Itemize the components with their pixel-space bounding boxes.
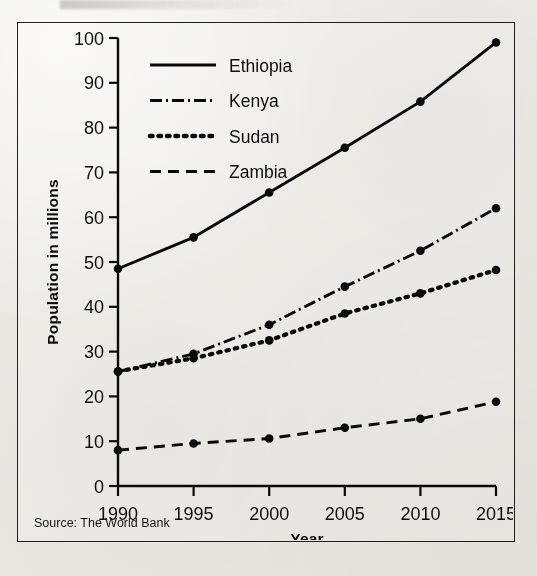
- x-tick-label-2000: 2000: [249, 504, 289, 524]
- series-line-kenya: [118, 208, 496, 372]
- data-point-ethiopia-1990: [114, 264, 123, 273]
- data-point-ethiopia-2010: [416, 97, 425, 106]
- x-tick-label-1995: 1995: [174, 504, 214, 524]
- data-point-zambia-2010: [416, 415, 425, 424]
- legend-label-kenya: Kenya: [229, 91, 279, 111]
- data-point-sudan-1995: [189, 354, 198, 363]
- x-tick-label-2015: 2015: [476, 504, 513, 524]
- data-point-zambia-1990: [114, 446, 123, 455]
- y-tick-label-100: 100: [74, 29, 104, 49]
- y-tick-label-60: 60: [84, 208, 104, 228]
- data-point-sudan-1990: [114, 367, 123, 376]
- data-point-ethiopia-2005: [341, 143, 350, 152]
- figure-frame: 0102030405060708090100199019952000200520…: [17, 22, 515, 542]
- legend-label-zambia: Zambia: [229, 162, 288, 182]
- series-line-ethiopia: [118, 42, 496, 268]
- y-tick-label-50: 50: [84, 253, 104, 273]
- data-point-ethiopia-2000: [265, 188, 274, 197]
- x-tick-label-2010: 2010: [400, 504, 440, 524]
- y-axis-title: Population in millions: [44, 179, 61, 344]
- x-axis-title: Year: [290, 530, 324, 540]
- data-point-ethiopia-2015: [492, 38, 501, 47]
- scan-artifact: [60, 0, 300, 9]
- x-tick-label-2005: 2005: [325, 504, 365, 524]
- data-point-sudan-2015: [492, 266, 501, 275]
- data-point-zambia-1995: [189, 439, 198, 448]
- series-line-sudan: [118, 270, 496, 371]
- data-point-zambia-2000: [265, 434, 274, 443]
- y-tick-label-80: 80: [84, 118, 104, 138]
- data-point-kenya-2005: [341, 282, 350, 291]
- legend-label-ethiopia: Ethiopia: [229, 56, 293, 76]
- y-tick-label-20: 20: [84, 387, 104, 407]
- line-chart: 0102030405060708090100199019952000200520…: [18, 23, 513, 540]
- data-point-ethiopia-1995: [189, 233, 198, 242]
- data-point-kenya-2015: [492, 204, 501, 213]
- y-tick-label-40: 40: [84, 297, 104, 317]
- data-point-sudan-2000: [265, 336, 274, 345]
- y-tick-label-90: 90: [84, 73, 104, 93]
- data-point-zambia-2005: [341, 423, 350, 432]
- data-point-zambia-2015: [492, 397, 501, 406]
- source-note: Source: The World Bank: [34, 516, 170, 530]
- data-point-kenya-2000: [265, 320, 274, 329]
- y-tick-label-0: 0: [94, 477, 104, 497]
- chart-figure: 0102030405060708090100199019952000200520…: [18, 23, 514, 541]
- data-point-sudan-2010: [416, 289, 425, 298]
- series-line-zambia: [118, 402, 496, 450]
- y-tick-label-30: 30: [84, 342, 104, 362]
- y-tick-label-10: 10: [84, 432, 104, 452]
- legend-label-sudan: Sudan: [229, 127, 280, 147]
- y-tick-label-70: 70: [84, 163, 104, 183]
- data-point-sudan-2005: [341, 309, 350, 318]
- data-point-kenya-2010: [416, 247, 425, 256]
